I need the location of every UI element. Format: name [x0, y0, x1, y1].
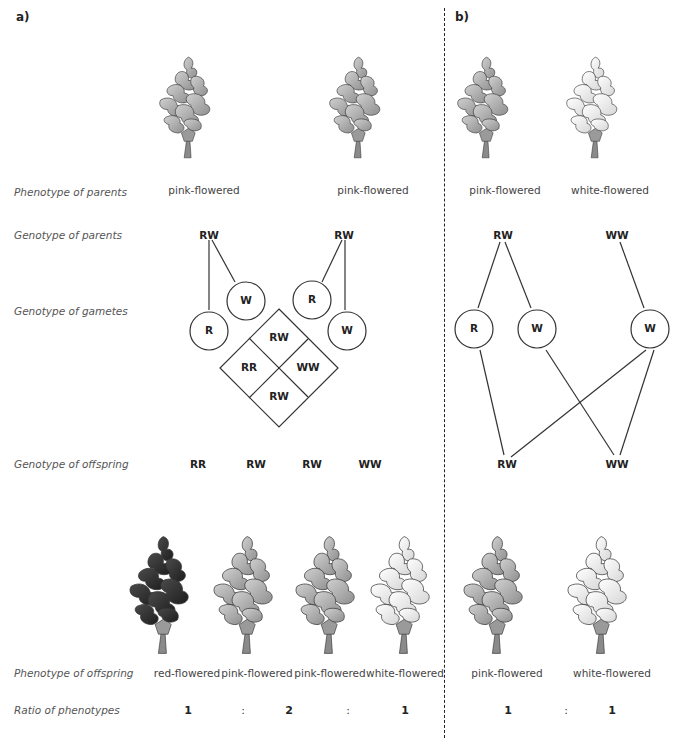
genotype-offspring-a1: RR [190, 458, 206, 470]
punnett-right: WW [296, 361, 319, 373]
genotype-parent-b1: RW [493, 229, 513, 241]
punnett-left: RR [241, 361, 257, 373]
ratio-a-2: 2 [285, 704, 293, 717]
genotype-offspring-a4: WW [358, 458, 381, 470]
phenotype-offspring-a1: red-flowered [154, 667, 220, 679]
phenotype-offspring-a4: white-flowered [366, 667, 444, 679]
ratio-a-colon-2: : [346, 704, 350, 717]
punnett-top: RW [269, 331, 289, 343]
flower-icon-pink-offspring-1 [212, 525, 284, 665]
gamete-b-W1: W [531, 322, 543, 334]
phenotype-offspring-a2: pink-flowered [221, 667, 292, 679]
phenotype-offspring-b1: pink-flowered [471, 667, 542, 679]
genotype-offspring-b1: RW [497, 458, 517, 470]
gamete-a-W2: W [341, 324, 353, 336]
gamete-a-R1: R [205, 324, 213, 336]
ratio-b-1: 1 [504, 704, 512, 717]
genotype-offspring-a2: RW [246, 458, 266, 470]
genotype-parent-a2: RW [334, 229, 354, 241]
genotype-parent-b2: WW [605, 229, 628, 241]
punnett-bottom: RW [269, 390, 289, 402]
flower-icon-white-offspring [369, 525, 441, 665]
flower-icon-pink-offspring-2 [294, 525, 366, 665]
genotype-offspring-b2: WW [605, 458, 628, 470]
ratio-b-2: 1 [608, 704, 616, 717]
gamete-b-W2: W [644, 322, 656, 334]
flower-icon-red-offspring [128, 525, 200, 665]
genotype-parent-a1: RW [199, 229, 219, 241]
ratio-a-1: 1 [184, 704, 192, 717]
gamete-a-W1: W [240, 294, 252, 306]
ratio-a-3: 1 [401, 704, 409, 717]
ratio-b-colon: : [564, 704, 568, 717]
flower-icon-pink-offspring-b [462, 525, 534, 665]
ratio-a-colon-1: : [241, 704, 245, 717]
flower-icon-white-offspring-b [566, 525, 638, 665]
gamete-b-R: R [470, 322, 478, 334]
phenotype-offspring-b2: white-flowered [573, 667, 651, 679]
gamete-a-R2: R [308, 293, 316, 305]
genotype-offspring-a3: RW [302, 458, 322, 470]
phenotype-offspring-a3: pink-flowered [294, 667, 365, 679]
